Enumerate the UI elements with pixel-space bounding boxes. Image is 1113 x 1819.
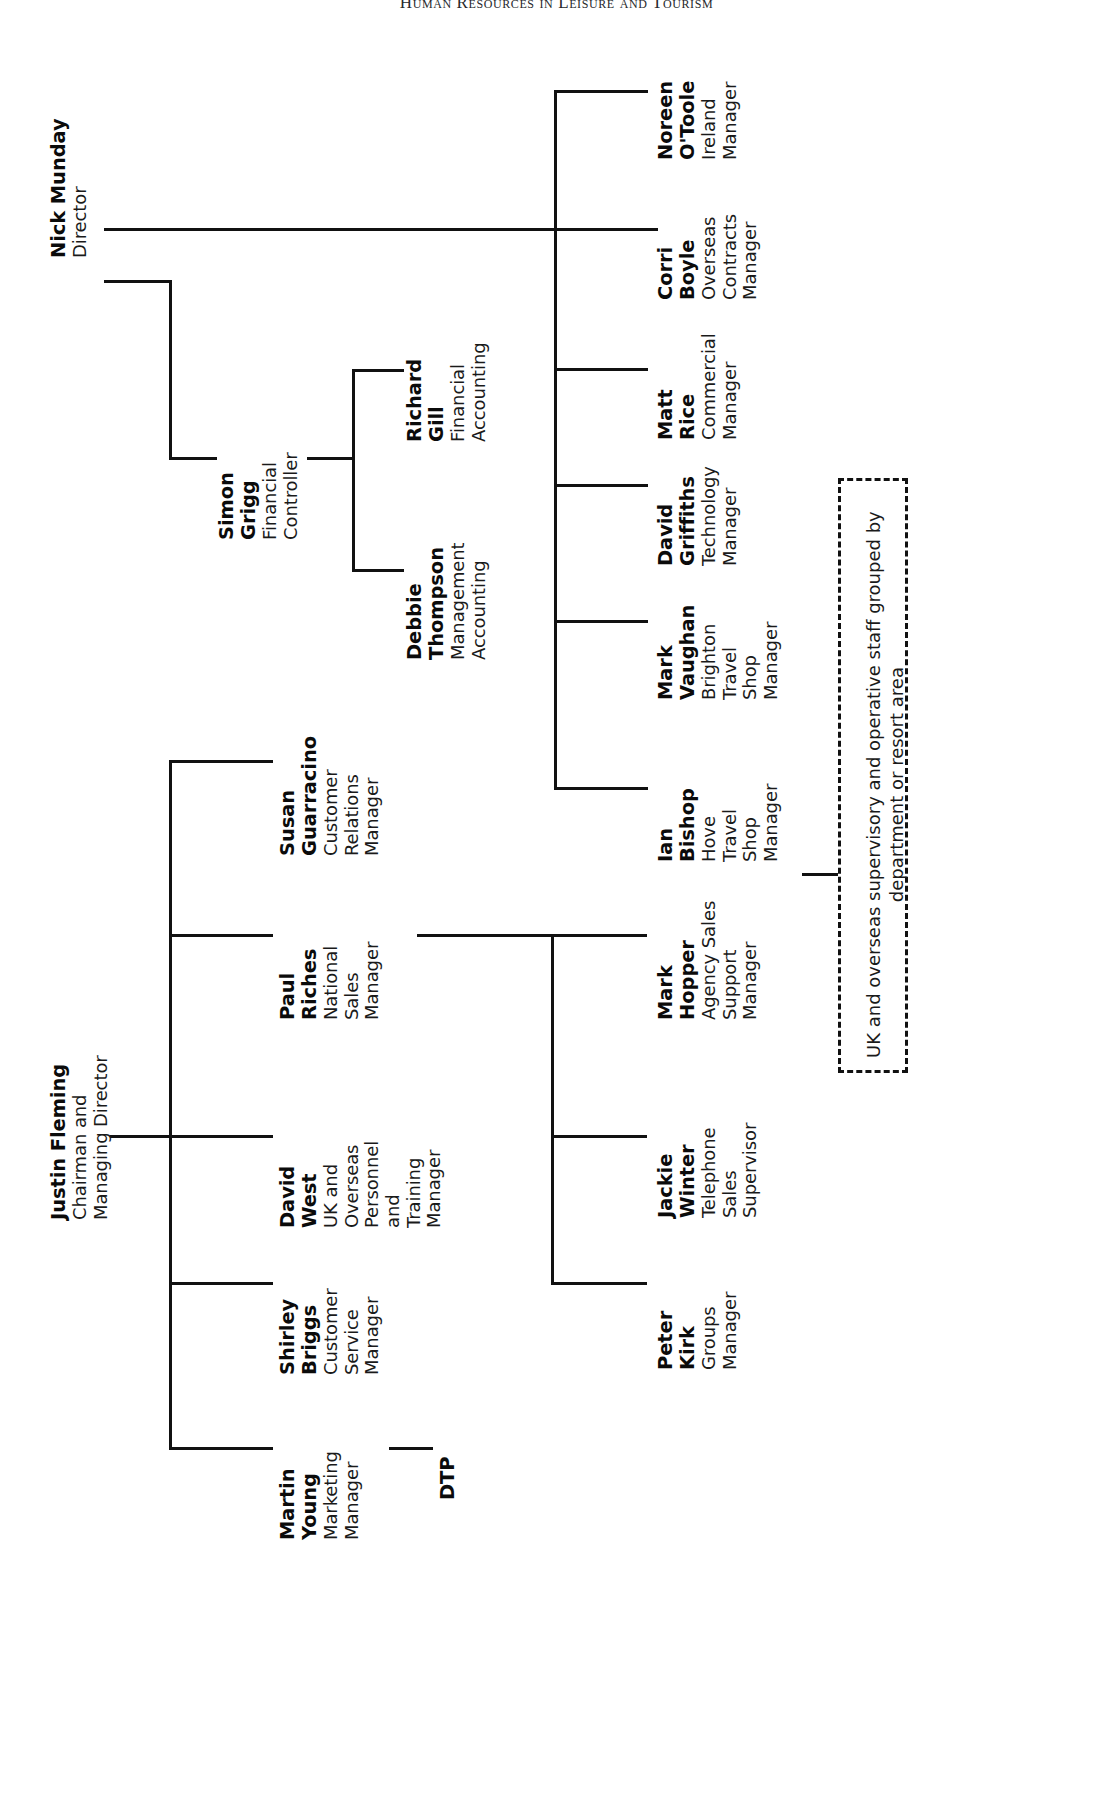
node-mark-hopper[interactable]: Mark Hopper Agency Sales Support Manager xyxy=(655,901,761,1020)
node-role-line: Shop xyxy=(740,605,761,700)
connector-martin-young-to-dtp xyxy=(389,1447,433,1450)
connector-to-susan-guarracino xyxy=(169,760,273,763)
node-role-line: Managing Director xyxy=(91,1055,112,1220)
connector-paul-riches-stem xyxy=(417,934,554,937)
node-role-line: Overseas xyxy=(342,1141,363,1228)
connector-nick-munday-vertical xyxy=(169,280,172,460)
node-role-line: Financial xyxy=(448,342,469,442)
node-noreen-otoole[interactable]: Noreen O'Toole Ireland Manager xyxy=(655,81,740,160)
connector-to-jackie-winter xyxy=(551,1135,647,1138)
node-role-line: Manager xyxy=(761,605,782,700)
connector-annotation-leader xyxy=(802,873,838,876)
node-role-line: Manager xyxy=(720,466,741,566)
node-name-line: Nick Munday xyxy=(48,118,70,258)
connector-justin-fleming-stem xyxy=(110,1135,170,1138)
node-name-line: Vaughan xyxy=(677,605,699,700)
node-role-line: Sales xyxy=(720,1123,741,1218)
node-dtp[interactable]: DTP xyxy=(437,1457,459,1500)
node-name-line: O'Toole xyxy=(677,81,699,160)
node-paul-riches[interactable]: Paul Riches National Sales Manager xyxy=(277,942,383,1020)
node-role-line: Manager xyxy=(362,942,383,1020)
node-role-line: Travel xyxy=(720,784,741,862)
node-martin-young[interactable]: Martin Young Marketing Manager xyxy=(277,1451,362,1540)
node-name-line: Kirk xyxy=(677,1292,699,1370)
node-name-line: Richard xyxy=(404,342,426,442)
connector-nick-munday-to-simon-grigg xyxy=(104,280,172,283)
node-role-line: Accounting xyxy=(469,342,490,442)
connector-to-richard-gill xyxy=(352,369,404,372)
node-nick-munday[interactable]: Nick Munday Director xyxy=(48,118,91,258)
node-role-line: Manager xyxy=(342,1451,363,1540)
connector-nick-munday-right-spine xyxy=(554,90,557,790)
node-name-line: Thompson xyxy=(426,542,448,660)
node-role-line: UK and xyxy=(321,1141,342,1228)
node-peter-kirk[interactable]: Peter Kirk Groups Manager xyxy=(655,1292,740,1370)
node-justin-fleming[interactable]: Justin Fleming Chairman and Managing Dir… xyxy=(48,1055,111,1220)
node-richard-gill[interactable]: Richard Gill Financial Accounting xyxy=(404,342,489,442)
connector-simon-grigg-vertical xyxy=(352,369,355,572)
node-name-line: Simon xyxy=(216,452,238,540)
node-name-line: Jackie xyxy=(655,1123,677,1218)
node-name-line: Griffiths xyxy=(677,466,699,566)
node-role-line: Manager xyxy=(720,81,741,160)
node-role-line: Overseas xyxy=(699,214,720,300)
node-role-line: Groups xyxy=(699,1292,720,1370)
node-jackie-winter[interactable]: Jackie Winter Telephone Sales Supervisor xyxy=(655,1123,761,1218)
node-ian-bishop[interactable]: Ian Bishop Hove Travel Shop Manager xyxy=(655,784,782,862)
node-role-line: Chairman and xyxy=(70,1055,91,1220)
node-role-line: Manager xyxy=(424,1141,445,1228)
node-role-line: Marketing xyxy=(321,1451,342,1540)
connector-to-matt-rice xyxy=(554,368,648,371)
node-name-line: Paul xyxy=(277,942,299,1020)
node-susan-guarracino[interactable]: Susan Guarracino Customer Relations Mana… xyxy=(277,736,383,856)
node-corri-boyle[interactable]: Corri Boyle Overseas Contracts Manager xyxy=(655,214,761,300)
connector-nick-munday-to-right-branch xyxy=(104,228,658,231)
node-role-line: Support xyxy=(720,901,741,1020)
node-role-line: Manager xyxy=(720,1292,741,1370)
node-mark-vaughan[interactable]: Mark Vaughan Brighton Travel Shop Manage… xyxy=(655,605,782,700)
node-name-line: Ian xyxy=(655,784,677,862)
node-name-line: Susan xyxy=(277,736,299,856)
node-david-griffiths[interactable]: David Griffiths Technology Manager xyxy=(655,466,740,566)
node-name-line: Debbie xyxy=(404,542,426,660)
node-name-line: Gill xyxy=(426,342,448,442)
node-simon-grigg[interactable]: Simon Grigg Financial Controller xyxy=(216,452,301,540)
organisation-chart: Nick Munday Director Justin Fleming Chai… xyxy=(0,0,1113,1819)
node-shirley-briggs[interactable]: Shirley Briggs Customer Service Manager xyxy=(277,1288,383,1375)
annotation-text: UK and overseas supervisory and operativ… xyxy=(862,511,909,1058)
annotation-line: department or resort area xyxy=(885,511,908,1058)
node-role-line: Financial xyxy=(260,452,281,540)
node-name-line: Matt xyxy=(655,333,677,440)
annotation-line: UK and overseas supervisory and operativ… xyxy=(862,511,885,1058)
connector-to-shirley-briggs xyxy=(169,1282,273,1285)
node-name-line: Noreen xyxy=(655,81,677,160)
node-name-line: Grigg xyxy=(238,452,260,540)
connector-simon-grigg-stem xyxy=(307,457,355,460)
connector-to-martin-young xyxy=(169,1447,273,1450)
node-role-line: National xyxy=(321,942,342,1020)
connector-paul-riches-vertical xyxy=(551,934,554,1284)
node-role-line: Manager xyxy=(740,214,761,300)
node-name-line: Mark xyxy=(655,605,677,700)
connector-to-peter-kirk xyxy=(551,1282,647,1285)
node-role-line: Service xyxy=(342,1288,363,1375)
connector-justin-fleming-spine xyxy=(169,760,172,1450)
node-role-line: Manager xyxy=(362,736,383,856)
node-role-line: Customer xyxy=(321,736,342,856)
node-name-line: David xyxy=(655,466,677,566)
node-role-line: Telephone xyxy=(699,1123,720,1218)
node-debbie-thompson[interactable]: Debbie Thompson Management Accounting xyxy=(404,542,489,660)
node-role-line: Manager xyxy=(720,333,741,440)
node-role-line: Commercial xyxy=(699,333,720,440)
node-role-line: Training xyxy=(404,1141,425,1228)
node-role-line: Hove xyxy=(699,784,720,862)
node-matt-rice[interactable]: Matt Rice Commercial Manager xyxy=(655,333,740,440)
node-name-line: Martin xyxy=(277,1451,299,1540)
connector-to-ian-bishop xyxy=(554,787,648,790)
node-role-line: Agency Sales xyxy=(699,901,720,1020)
node-david-west[interactable]: David West UK and Overseas Personnel and… xyxy=(277,1141,445,1228)
node-name-line: West xyxy=(299,1141,321,1228)
node-name-line: Briggs xyxy=(299,1288,321,1375)
connector-to-mark-hopper xyxy=(551,934,647,937)
node-name-line: Guarracino xyxy=(299,736,321,856)
